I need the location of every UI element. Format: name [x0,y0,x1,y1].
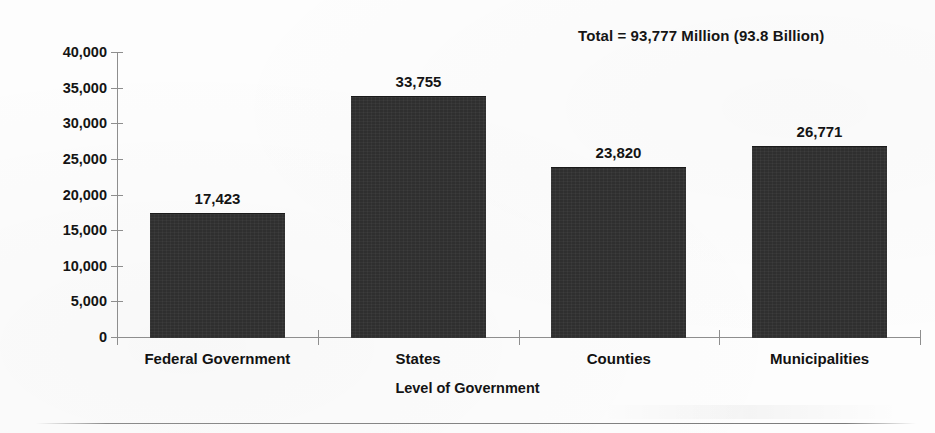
bar-value-label: 33,755 [311,73,526,90]
bar [150,213,285,338]
bar [551,167,686,338]
y-axis-tick [111,123,123,124]
bar-value-label: 26,771 [712,123,927,140]
y-axis-tick [111,88,123,89]
y-axis-tick-label: 0 [7,329,107,345]
y-axis-tick [111,230,123,231]
bar [752,146,887,338]
x-axis-title: Level of Government [0,380,935,396]
y-axis-tick [111,301,123,302]
x-axis-category-label: Counties [509,350,729,367]
y-axis-tick-label: 15,000 [7,222,107,238]
x-axis-category-label: Federal Government [107,350,327,367]
y-axis-tick-label: 40,000 [7,44,107,60]
x-axis-tick [318,330,319,345]
x-axis-tick [719,330,720,345]
x-axis-tick [519,330,520,345]
x-axis-category-label: States [308,350,528,367]
y-axis-tick-label: 30,000 [7,115,107,131]
y-axis-tick-label: 5,000 [7,293,107,309]
y-axis-tick-label: 10,000 [7,258,107,274]
y-axis-tick [111,52,123,53]
y-axis-tick-label: 20,000 [7,187,107,203]
bar-value-label: 23,820 [511,144,726,161]
x-axis-tick [117,330,118,345]
scan-smudge [600,405,900,419]
plot-area: 05,00010,00015,00020,00025,00030,00035,0… [0,0,935,433]
y-axis-tick [111,159,123,160]
y-axis-tick-label: 25,000 [7,151,107,167]
x-axis-category-label: Municipalities [710,350,930,367]
y-axis-tick [111,266,123,267]
bar-chart: Total = 93,777 Million (93.8 Billion) 05… [0,0,935,433]
scan-artifact-line [36,423,916,424]
x-axis-tick [920,330,921,345]
y-axis-tick-label: 35,000 [7,80,107,96]
bar [351,96,486,338]
bar-value-label: 17,423 [110,190,325,207]
